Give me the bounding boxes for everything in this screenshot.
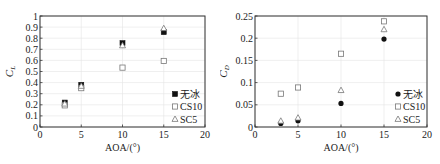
legend-marker-SC5 <box>395 116 401 121</box>
legend-label: 无冰 <box>403 88 423 100</box>
data-point-CS10 <box>295 85 300 90</box>
y-axis-ticks: 00.050.10.150.20.25 <box>236 11 258 133</box>
data-point-CS10 <box>278 91 283 96</box>
drag-chart-svg: 0510152000.050.10.150.20.25AOA/(°)CD无冰CS… <box>220 0 440 164</box>
data-point-CS10 <box>120 65 125 70</box>
data-point-CS10 <box>381 19 386 24</box>
x-axis-label: AOA/(°) <box>323 142 358 154</box>
y-tick-label: 0.1 <box>241 77 254 88</box>
y-tick-label: 0.4 <box>26 77 39 88</box>
y-tick-label: 0 <box>33 122 38 133</box>
y-tick-label: 1 <box>33 11 38 22</box>
legend: 无冰CS10SC5 <box>395 88 425 125</box>
y-tick-label: 0.25 <box>236 11 254 22</box>
lift-coefficient-chart: 0510152000.10.20.30.40.50.60.70.80.91AOA… <box>0 0 220 164</box>
x-tick-label: 20 <box>422 129 432 140</box>
legend-marker-CS10 <box>172 104 177 109</box>
y-tick-label: 0.2 <box>26 99 39 110</box>
y-tick-label: 0.3 <box>26 88 39 99</box>
y-tick-label: 0.9 <box>26 22 39 33</box>
y-tick-label: 0.7 <box>26 44 39 55</box>
legend: 无冰CS10SC5 <box>172 88 202 125</box>
legend-marker-无冰 <box>395 91 400 96</box>
x-tick-label: 0 <box>38 129 43 140</box>
y-tick-label: 0.1 <box>26 110 39 121</box>
lift-chart-svg: 0510152000.10.20.30.40.50.60.70.80.91AOA… <box>0 0 220 164</box>
y-tick-label: 0.15 <box>236 55 254 66</box>
data-point-无冰 <box>338 101 343 106</box>
x-tick-label: 20 <box>200 129 210 140</box>
data-point-SC5 <box>278 118 284 123</box>
x-tick-label: 15 <box>159 129 169 140</box>
x-tick-label: 10 <box>336 129 346 140</box>
x-axis-label: AOA/(°) <box>105 142 140 154</box>
y-tick-label: 0.2 <box>241 33 254 44</box>
x-tick-label: 0 <box>253 129 258 140</box>
y-tick-label: 0.6 <box>26 55 39 66</box>
data-point-SC5 <box>161 25 167 30</box>
y-tick-label: 0.8 <box>26 33 39 44</box>
x-tick-label: 5 <box>79 129 84 140</box>
y-axis-label: CL <box>3 66 17 77</box>
x-tick-label: 10 <box>118 129 128 140</box>
legend-marker-SC5 <box>172 116 178 121</box>
legend-label: SC5 <box>180 114 197 125</box>
data-point-SC5 <box>295 115 301 120</box>
y-tick-label: 0.5 <box>26 66 39 77</box>
data-point-CS10 <box>161 58 166 63</box>
legend-marker-无冰 <box>173 92 178 97</box>
y-axis-label: CD <box>220 65 231 77</box>
legend-label: CS10 <box>403 101 425 112</box>
data-point-SC5 <box>338 87 344 92</box>
y-tick-label: 0.05 <box>236 99 254 110</box>
data-point-SC5 <box>381 26 387 31</box>
legend-marker-CS10 <box>395 104 400 109</box>
legend-label: CS10 <box>180 101 202 112</box>
x-tick-label: 5 <box>296 129 301 140</box>
data-point-CS10 <box>338 51 343 56</box>
legend-label: SC5 <box>403 114 420 125</box>
data-point-无冰 <box>381 36 386 41</box>
grid-lines <box>255 16 427 127</box>
y-tick-label: 0 <box>248 122 253 133</box>
x-tick-label: 15 <box>379 129 389 140</box>
legend-label: 无冰 <box>180 88 200 100</box>
drag-coefficient-chart: 0510152000.050.10.150.20.25AOA/(°)CD无冰CS… <box>220 0 440 164</box>
